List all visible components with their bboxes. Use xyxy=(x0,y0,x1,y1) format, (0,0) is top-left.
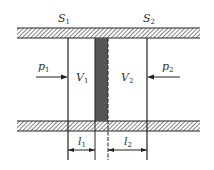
p2-arrow-icon xyxy=(147,75,180,80)
label-p1: p1 xyxy=(38,60,50,74)
p1-arrow-icon xyxy=(36,75,68,80)
label-S2: S2 xyxy=(143,12,155,26)
diagram-canvas: S1 S2 p1 p2 V1 V2 l1 l2 xyxy=(0,0,214,170)
top-wall xyxy=(17,28,200,38)
label-V1: V1 xyxy=(76,71,88,85)
piston xyxy=(95,38,108,160)
label-l2: l2 xyxy=(124,135,132,149)
label-l1: l1 xyxy=(78,135,86,149)
label-S1: S1 xyxy=(58,12,70,26)
label-V2: V2 xyxy=(121,71,133,85)
label-p2: p2 xyxy=(162,60,174,74)
